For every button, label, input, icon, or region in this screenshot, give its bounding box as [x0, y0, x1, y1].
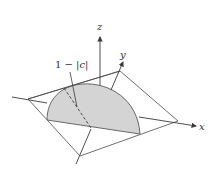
y-axis-label: y — [119, 49, 126, 60]
y-axis — [111, 62, 123, 90]
annotation-prefix: 1 − | — [55, 59, 79, 71]
annotation-suffix: | — [85, 59, 88, 71]
y-axis-negative — [76, 129, 91, 164]
x-axis-label: x — [199, 121, 205, 132]
diagram-canvas: z y x 1 − |c| — [0, 0, 214, 176]
radius-annotation: 1 − |c| — [55, 59, 88, 71]
z-axis-label: z — [96, 21, 103, 32]
x-axis-negative — [12, 97, 47, 103]
half-disk-cross-section — [47, 84, 140, 134]
halfdisk-diagram: z y x 1 − |c| — [0, 0, 214, 176]
